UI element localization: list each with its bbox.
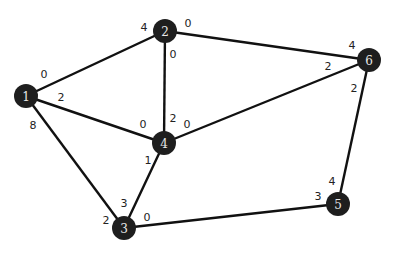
edge-weight-label: 2 bbox=[103, 214, 110, 227]
node-4: 4 bbox=[152, 131, 176, 155]
edge-weight-label: 0 bbox=[140, 118, 147, 131]
edge-2-6 bbox=[165, 31, 369, 60]
edge-2-4 bbox=[164, 31, 165, 143]
edge-weight-label: 4 bbox=[329, 175, 336, 188]
node-3: 3 bbox=[112, 216, 136, 240]
edge-weight-label: 3 bbox=[121, 197, 128, 210]
node-label: 4 bbox=[160, 137, 168, 151]
edge-weight-label: 0 bbox=[170, 48, 177, 61]
node-6: 6 bbox=[357, 48, 381, 72]
node-label: 2 bbox=[161, 25, 169, 39]
node-label: 1 bbox=[22, 90, 30, 104]
node-5: 5 bbox=[326, 192, 350, 216]
edge-weight-label: 4 bbox=[349, 39, 356, 52]
edge-weight-label: 2 bbox=[325, 60, 332, 73]
edge-weight-labels: 028400200142232043 bbox=[30, 17, 358, 227]
graph-diagram: 028400200142232043 123456 bbox=[0, 0, 398, 254]
edge-weight-label: 8 bbox=[30, 119, 37, 132]
edge-1-2 bbox=[26, 31, 165, 96]
node-label: 6 bbox=[365, 54, 373, 68]
edge-1-3 bbox=[26, 96, 124, 228]
edge-weight-label: 2 bbox=[170, 112, 177, 125]
edge-weight-label: 0 bbox=[144, 211, 151, 224]
edge-weight-label: 2 bbox=[58, 91, 65, 104]
edge-weight-label: 3 bbox=[315, 190, 322, 203]
edge-weight-label: 0 bbox=[41, 68, 48, 81]
edge-weight-label: 2 bbox=[351, 82, 358, 95]
edge-weight-label: 0 bbox=[184, 118, 191, 131]
node-1: 1 bbox=[14, 84, 38, 108]
edge-weight-label: 0 bbox=[185, 17, 192, 30]
edge-weight-label: 4 bbox=[141, 21, 148, 34]
edge-weight-label: 1 bbox=[145, 154, 152, 167]
node-label: 3 bbox=[120, 222, 128, 236]
node-2: 2 bbox=[153, 19, 177, 43]
node-label: 5 bbox=[334, 198, 342, 212]
edge-3-5 bbox=[124, 204, 338, 228]
edge-4-6 bbox=[164, 60, 369, 143]
